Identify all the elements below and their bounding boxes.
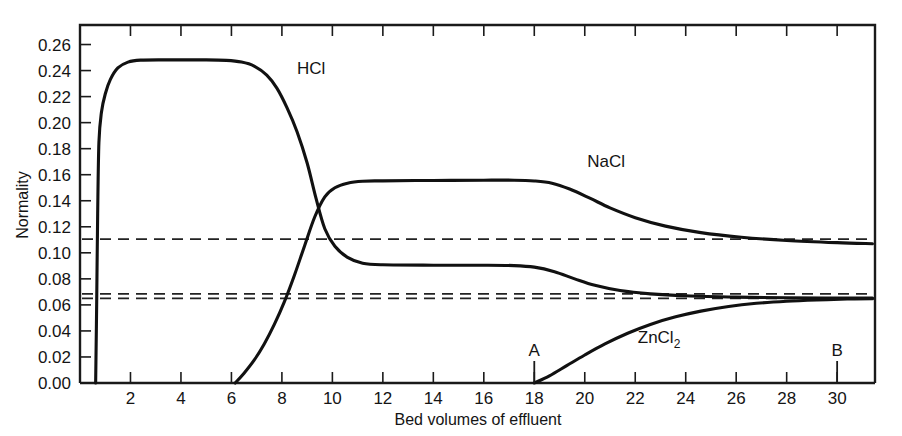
x-tick-label: 12: [373, 389, 392, 408]
x-tick-label: 22: [626, 389, 645, 408]
y-tick-label: 0.12: [38, 218, 71, 237]
x-tick-label: 20: [575, 389, 594, 408]
x-tick-label: 4: [176, 389, 185, 408]
x-tick-label: 26: [727, 389, 746, 408]
y-tick-label: 0.24: [38, 62, 71, 81]
y-tick-label: 0.10: [38, 244, 71, 263]
x-tick-label: 24: [676, 389, 695, 408]
series-label-HCl: HCl: [297, 59, 325, 78]
x-tick-label: 16: [474, 389, 493, 408]
normality-vs-bed-volumes-chart: 0.000.020.040.060.080.100.120.140.160.18…: [0, 0, 902, 436]
x-tick-label: 8: [277, 389, 286, 408]
series-label-text: HCl: [297, 59, 325, 78]
x-axis-title: Bed volumes of effluent: [395, 411, 562, 428]
marker-label-B: B: [831, 341, 842, 360]
y-tick-label: 0.00: [38, 374, 71, 393]
x-tick-label: 6: [227, 389, 236, 408]
x-tick-label: 28: [777, 389, 796, 408]
x-axis-tick-labels: 24681012141618202224262830: [126, 389, 847, 408]
y-tick-label: 0.22: [38, 88, 71, 107]
y-tick-label: 0.18: [38, 140, 71, 159]
marker-label-A: A: [529, 341, 541, 360]
chart-figure: 0.000.020.040.060.080.100.120.140.160.18…: [0, 0, 902, 436]
x-tick-label: 18: [525, 389, 544, 408]
series-label-text: NaCl: [587, 152, 625, 171]
chart-background: [0, 0, 902, 436]
y-axis-title: Normality: [14, 171, 31, 239]
series-label-subscript: 2: [674, 337, 681, 351]
x-tick-label: 2: [126, 389, 135, 408]
y-tick-label: 0.08: [38, 270, 71, 289]
y-tick-label: 0.20: [38, 114, 71, 133]
x-tick-label: 14: [424, 389, 443, 408]
y-tick-label: 0.06: [38, 296, 71, 315]
series-label-NaCl: NaCl: [587, 152, 625, 171]
x-tick-label: 30: [828, 389, 847, 408]
y-tick-label: 0.26: [38, 36, 71, 55]
y-tick-label: 0.14: [38, 192, 71, 211]
y-tick-label: 0.02: [38, 348, 71, 367]
x-tick-label: 10: [323, 389, 342, 408]
y-tick-label: 0.04: [38, 322, 71, 341]
series-label-text: ZnCl: [638, 328, 674, 347]
y-tick-label: 0.16: [38, 166, 71, 185]
